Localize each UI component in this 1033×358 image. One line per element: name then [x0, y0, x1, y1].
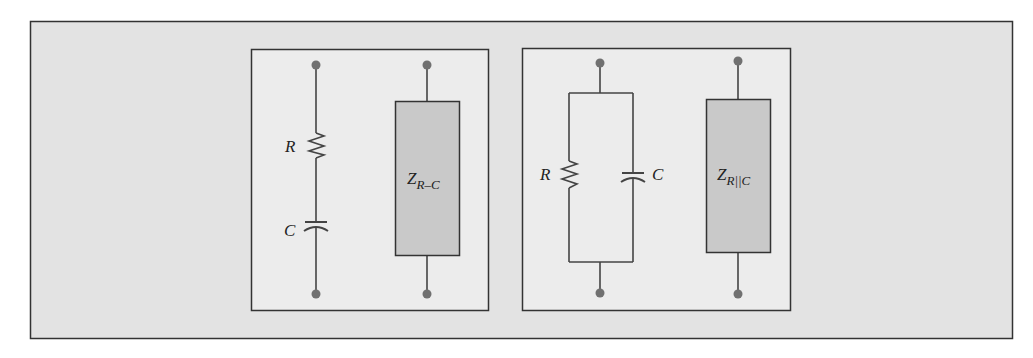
- left-panel-series-rc: R C ZR–C: [252, 50, 489, 311]
- terminal-bottom: [596, 289, 605, 298]
- outer-frame: [31, 22, 1013, 339]
- terminal-bottom: [423, 290, 432, 299]
- terminal-top: [734, 57, 743, 66]
- capacitor-label: C: [284, 221, 296, 240]
- diagram-stage: R C ZR–C R C: [0, 0, 1033, 358]
- terminal-top: [312, 61, 321, 70]
- right-panel-parallel-rc: R C ZR||C: [523, 49, 791, 311]
- resistor-label: R: [284, 137, 296, 156]
- terminal-top: [423, 61, 432, 70]
- resistor-label: R: [539, 165, 551, 184]
- terminal-bottom: [312, 290, 321, 299]
- capacitor-label: C: [652, 165, 664, 184]
- terminal-top: [596, 59, 605, 68]
- terminal-bottom: [734, 290, 743, 299]
